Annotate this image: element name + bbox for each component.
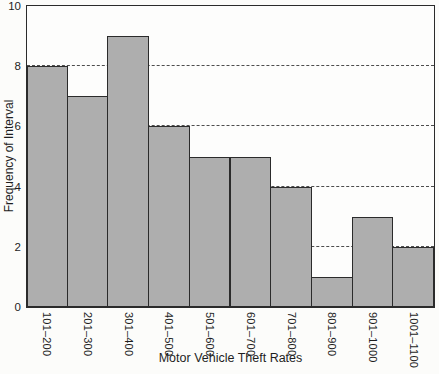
histogram-bar xyxy=(392,247,434,307)
gridline xyxy=(27,65,434,66)
plot-area xyxy=(26,5,435,308)
histogram-bar xyxy=(352,217,394,307)
x-tick-label: 1001–1100 xyxy=(407,312,421,368)
x-tick-label: 601–700 xyxy=(244,312,258,356)
x-tick-label: 901–1000 xyxy=(366,312,380,363)
x-tick-label: 101–200 xyxy=(40,312,54,356)
y-tick-label: 4 xyxy=(0,180,21,194)
y-axis-title: Frequency of Interval xyxy=(2,100,16,213)
histogram-bar xyxy=(148,126,190,307)
x-tick-label: 501–600 xyxy=(203,312,217,356)
y-tick-label: 8 xyxy=(0,59,21,73)
histogram-bar xyxy=(67,96,109,307)
x-tick-label: 801–900 xyxy=(325,312,339,356)
histogram-bar xyxy=(189,157,231,308)
histogram-bar xyxy=(27,66,68,307)
histogram-bar xyxy=(107,36,149,307)
histogram-bar xyxy=(270,187,312,307)
y-tick-label: 0 xyxy=(0,300,21,314)
histogram-bar xyxy=(311,277,353,307)
y-tick-label: 6 xyxy=(0,119,21,133)
histogram-bar xyxy=(230,157,272,308)
histogram-figure: Frequency of Interval Motor Vehicle Thef… xyxy=(0,0,439,374)
x-tick-label: 701–800 xyxy=(285,312,299,356)
x-tick-label: 301–400 xyxy=(122,312,136,356)
x-tick-label: 401–500 xyxy=(162,312,176,356)
x-tick-label: 201–300 xyxy=(81,312,95,356)
y-tick-label: 10 xyxy=(0,0,21,13)
y-tick-label: 2 xyxy=(0,240,21,254)
